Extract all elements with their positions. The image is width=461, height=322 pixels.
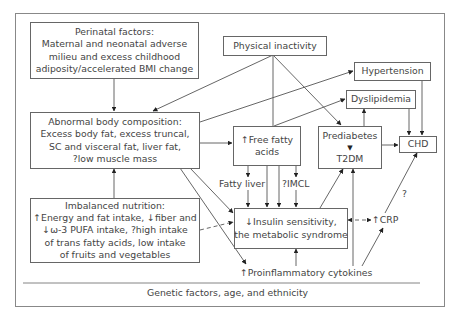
physical-inactivity-box: Physical inactivity	[223, 36, 327, 56]
nutrition-line-3: of trans fatty acids, low intake	[45, 237, 186, 249]
body-composition-line-3: ?low muscle mass	[73, 153, 157, 165]
body-composition-line-2: SC and visceral fat, liver fat,	[49, 141, 181, 153]
proinflammatory-cytokines-label: ↑Proinflammatory cytokines	[240, 267, 372, 279]
nutrition-line-1: ↑Energy and fat intake, ↓fiber and	[33, 212, 196, 224]
perinatal-title: Perinatal factors:	[75, 26, 154, 38]
imcl-label: ?IMCL	[282, 178, 309, 190]
body-composition-line-1: Excess body fat, excess truncal,	[40, 128, 189, 140]
chd-label: CHD	[408, 138, 429, 150]
progression-arrow-icon: ▼	[347, 144, 352, 152]
dyslipidemia-box: Dyslipidemia	[346, 90, 416, 109]
hypertension-box: Hypertension	[354, 62, 431, 81]
imbalanced-nutrition-box: Imbalanced nutrition: ↑Energy and fat in…	[30, 198, 200, 263]
nutrition-title: Imbalanced nutrition:	[65, 200, 165, 212]
perinatal-factors-box: Perinatal factors: Maternal and neonatal…	[30, 22, 199, 79]
insulin-line-1: ↓Insulin sensitivity,	[245, 216, 336, 228]
ffa-line-2: acids	[255, 146, 279, 158]
physical-inactivity-label: Physical inactivity	[233, 40, 317, 52]
nutrition-line-2: ↓ω-3 PUFA intake, ?high intake	[42, 224, 187, 236]
perinatal-line-2: milieu and excess childhood	[49, 51, 180, 63]
insulin-line-2: the metabolic syndrome	[234, 229, 347, 241]
fatty-liver-label: Fatty liver	[219, 178, 265, 190]
prediabetes-label: Prediabetes	[323, 130, 378, 142]
perinatal-line-3: adiposity/accelerated BMI change	[36, 63, 193, 75]
crp-label: ↑CRP	[372, 214, 398, 226]
genetic-factors-label: Genetic factors, age, and ethnicity	[147, 287, 308, 299]
crp-chd-question-label: ?	[402, 188, 407, 200]
perinatal-line-1: Maternal and neonatal adverse	[42, 38, 187, 50]
chd-box: CHD	[399, 136, 437, 153]
nutrition-line-4: of fruits and vegetables	[60, 249, 171, 261]
prediabetes-t2dm-box: Prediabetes ▼ T2DM	[318, 126, 382, 169]
body-composition-box: Abnormal body composition: Excess body f…	[30, 112, 200, 169]
hypertension-label: Hypertension	[361, 65, 423, 77]
insulin-sensitivity-box: ↓Insulin sensitivity, the metabolic synd…	[234, 208, 348, 249]
dyslipidemia-label: Dyslipidemia	[351, 93, 411, 105]
ffa-line-1: ↑Free fatty	[241, 134, 293, 146]
diagram-canvas: Perinatal factors: Maternal and neonatal…	[0, 0, 461, 322]
body-composition-title: Abnormal body composition:	[48, 116, 182, 128]
t2dm-label: T2DM	[337, 153, 364, 165]
free-fatty-acids-box: ↑Free fatty acids	[233, 126, 301, 166]
